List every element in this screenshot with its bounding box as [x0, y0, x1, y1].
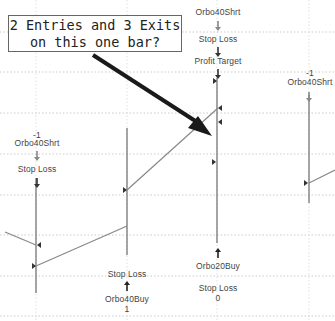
callout-line-2: on this one bar? [9, 34, 181, 51]
bar2-exit-label: Stop Loss [108, 269, 147, 279]
bar1-entry-label: Orbo40Shrt [15, 138, 60, 148]
trade-line-4 [309, 170, 335, 183]
bar1-exit-label: Stop Loss [18, 164, 57, 174]
bar4-entry-label: Orbo40Shrt [288, 77, 333, 87]
signal-arrows [34, 21, 312, 291]
bar3-short-arrow-head [215, 27, 221, 31]
annotation-callout: 2 Entries and 3 Exits on this one bar? [8, 15, 182, 52]
pointer-shaft [93, 55, 200, 124]
trade-lines [5, 108, 335, 266]
bar1-exit-marker [37, 242, 41, 248]
bar3-stop-loss-label: Stop Loss [199, 34, 238, 44]
trade-line-1 [5, 232, 36, 245]
callout-line-1: 2 Entries and 3 Exits [9, 17, 181, 34]
bar2-position-label: 1 [125, 304, 130, 314]
callout-pointer-arrow [93, 55, 212, 136]
bar3-entry-marker-2 [212, 159, 216, 165]
bar2-buy-arrow-head [124, 281, 130, 285]
bar1-short-arrow-head [34, 157, 40, 161]
bar2-entry-label: Orbo40Buy [105, 294, 149, 304]
bar3-buy-arrow-head [215, 248, 221, 252]
bar3-position-label: 0 [216, 293, 221, 303]
bar3-exit-marker-1 [218, 105, 222, 111]
bar4-entry-marker [304, 180, 308, 186]
trade-line-3 [127, 108, 218, 190]
bar3-entry-short-label: Orbo40Shrt [196, 7, 241, 17]
price-bars [32, 78, 309, 293]
bar4-short-arrow-head [306, 98, 312, 102]
chart-area[interactable]: 2 Entries and 3 Exits on this one bar? -… [0, 0, 335, 321]
trade-line-2 [36, 226, 127, 266]
bar3-target-arrow-head [215, 75, 221, 79]
bar3-exit-marker-2 [218, 119, 222, 125]
bar3-profit-target-label: Profit Target [195, 56, 242, 66]
bar3-entry-buy-label: Orbo20Buy [196, 261, 240, 271]
bar3-stop-loss-bottom-label: Stop Loss [199, 283, 238, 293]
bar1-stop-arrow-head [34, 184, 40, 188]
